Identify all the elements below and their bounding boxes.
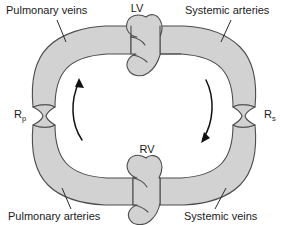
circulation-diagram-canvas: Pulmonary veins Systemic arteries Pulmon…	[0, 0, 287, 225]
label-systemic-veins: Systemic veins	[184, 210, 258, 222]
resistance-constriction-pulmonary	[33, 105, 55, 128]
resistance-constriction-systemic	[233, 105, 255, 128]
label-pulmonary-veins: Pulmonary veins	[6, 4, 88, 16]
resistance-pulmonary-symbol: R	[14, 108, 22, 120]
circulation-diagram: Pulmonary veins Systemic arteries Pulmon…	[0, 0, 287, 225]
flow-arrow-left-head	[75, 78, 84, 88]
flow-arrow-right-head	[201, 132, 210, 143]
resistance-pulmonary-subscript: p	[22, 114, 26, 123]
resistance-systemic-symbol: R	[264, 108, 272, 120]
vessel-pulmonary-arteries	[32, 125, 133, 205]
label-pulmonary-arteries: Pulmonary arteries	[8, 210, 101, 222]
vessel-systemic-arteries	[160, 26, 256, 107]
resistance-systemic-subscript: s	[272, 114, 276, 123]
flow-arrow-left-path	[73, 82, 82, 140]
vessel-pulmonary-veins	[32, 26, 131, 107]
label-systemic-arteries: Systemic arteries	[185, 4, 270, 16]
label-right-ventricle: RV	[139, 143, 155, 155]
label-left-ventricle: LV	[131, 2, 144, 14]
label-resistance-systemic: Rs	[264, 108, 276, 123]
flow-arrow-right-path	[203, 80, 212, 139]
label-resistance-pulmonary: Rp	[14, 108, 26, 123]
